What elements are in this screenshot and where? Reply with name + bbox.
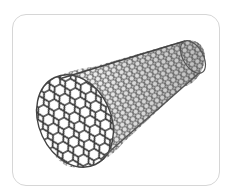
image-frame: Carbon nanotube illustration xyxy=(12,14,220,186)
carbon-nanotube-illustration xyxy=(13,15,220,186)
